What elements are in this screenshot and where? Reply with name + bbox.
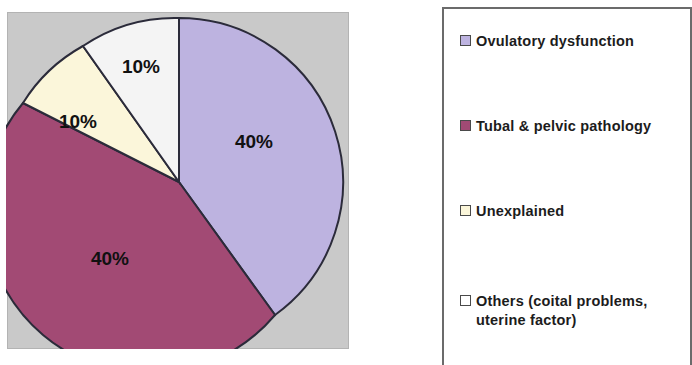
legend-swatch-icon [460, 295, 471, 306]
pie-slice-label-tubal-pelvic-pathology: 40% [91, 248, 129, 269]
legend-item-ovulatory-dysfunction[interactable]: Ovulatory dysfunction [460, 32, 634, 51]
legend: Ovulatory dysfunction Tubal & pelvic pat… [442, 7, 692, 365]
legend-swatch-icon [460, 120, 471, 131]
legend-item-tubal-pelvic-pathology[interactable]: Tubal & pelvic pathology [460, 117, 651, 136]
legend-item-label: Unexplained [476, 202, 564, 221]
legend-item-unexplained[interactable]: Unexplained [460, 202, 564, 221]
pie-plot-area: 40% 40% 10% 10% [7, 12, 349, 349]
legend-item-others[interactable]: Others (coital problems, uterine factor) [460, 292, 648, 330]
pie-slice-label-unexplained: 10% [59, 111, 97, 132]
pie-slice-label-ovulatory-dysfunction: 40% [235, 131, 273, 152]
pie-slice-label-others: 10% [122, 56, 160, 77]
legend-swatch-icon [460, 35, 471, 46]
legend-swatch-icon [460, 205, 471, 216]
legend-item-label: Tubal & pelvic pathology [476, 117, 651, 136]
pie-chart-svg: 40% 40% 10% 10% [6, 15, 352, 349]
legend-item-label: Others (coital problems, uterine factor) [476, 292, 648, 330]
legend-item-label: Ovulatory dysfunction [476, 32, 634, 51]
